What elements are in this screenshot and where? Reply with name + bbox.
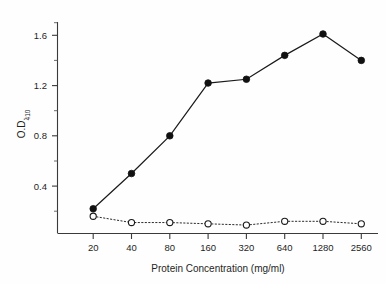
chart-figure: 1.6 1.2 0.8 0.4 O.D. 410 20 40 80 160	[0, 0, 386, 284]
data-point-filled-circles-2560	[358, 57, 365, 64]
x-tick-label: 640	[277, 242, 293, 253]
data-point-open-circles-160	[205, 221, 211, 227]
data-point-filled-circles-80	[167, 133, 174, 140]
data-point-filled-circles-40	[128, 170, 135, 177]
series-open-circles	[90, 213, 364, 228]
x-tick-label: 160	[200, 242, 216, 253]
x-axis-tick-labels: 20 40 80 160 320 640 1280 2560	[88, 242, 372, 253]
x-tick-label: 40	[126, 242, 137, 253]
data-point-open-circles-40	[128, 219, 134, 225]
x-tick-label: 2560	[351, 242, 372, 253]
x-tick-label: 320	[238, 242, 254, 253]
data-point-filled-circles-160	[205, 80, 212, 87]
data-point-open-circles-1280	[320, 218, 326, 224]
data-point-filled-circles-320	[243, 76, 250, 83]
data-point-open-circles-20	[90, 213, 96, 219]
data-point-open-circles-640	[282, 218, 288, 224]
x-tick-label: 20	[88, 242, 99, 253]
data-point-open-circles-320	[243, 222, 249, 228]
y-tick-label: 1.2	[34, 80, 47, 91]
x-tick-label: 80	[165, 242, 176, 253]
x-tick-label: 1280	[312, 242, 333, 253]
data-point-open-circles-2560	[358, 221, 364, 227]
y-tick-label: 0.8	[34, 130, 47, 141]
data-point-filled-circles-1280	[320, 31, 327, 38]
data-point-open-circles-80	[167, 219, 173, 225]
data-point-filled-circles-20	[90, 205, 97, 212]
y-axis-tick-labels: 1.6 1.2 0.8 0.4	[34, 30, 47, 192]
data-series-layer	[90, 31, 365, 228]
x-axis-ticks	[93, 234, 361, 240]
series-line-filled-circles	[93, 34, 361, 209]
series-filled-circles	[90, 31, 365, 212]
y-axis-title: O.D. 410	[16, 109, 31, 138]
y-tick-label: 0.4	[34, 181, 47, 192]
x-axis-title: Protein Concentration (mg/ml)	[151, 263, 284, 274]
chart-plot-area: 1.6 1.2 0.8 0.4 O.D. 410 20 40 80 160	[0, 0, 386, 284]
y-axis-title-subscript: 410	[24, 109, 31, 120]
data-point-filled-circles-640	[281, 52, 288, 59]
y-tick-label: 1.6	[34, 30, 47, 41]
